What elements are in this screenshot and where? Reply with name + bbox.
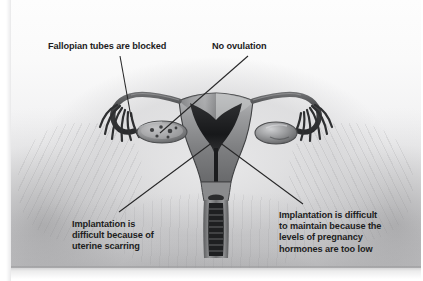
right-ovary bbox=[255, 122, 297, 144]
label-low-pregnancy-hormones: Implantation is difficult to maintain be… bbox=[279, 210, 381, 255]
vaginal-canal bbox=[203, 200, 229, 258]
plate-drop-shadow bbox=[10, 266, 421, 279]
label-no-ovulation: No ovulation bbox=[212, 41, 266, 52]
leader-line-scarring bbox=[119, 142, 213, 212]
label-uterine-scarring: Implantation is difficult because of ute… bbox=[72, 219, 154, 253]
left-ovary bbox=[137, 121, 187, 143]
figure-container: Fallopian tubes are blocked No ovulation… bbox=[0, 0, 423, 281]
label-fallopian-tubes-blocked: Fallopian tubes are blocked bbox=[48, 41, 166, 52]
right-fimbriae bbox=[293, 105, 332, 141]
cervix bbox=[201, 182, 231, 201]
left-fimbriae bbox=[100, 105, 139, 141]
plate-left-margin bbox=[0, 0, 11, 281]
